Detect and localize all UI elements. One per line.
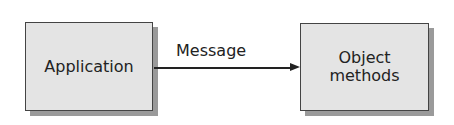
- application-node: Application: [25, 22, 153, 111]
- object-methods-label-line1: Object: [329, 49, 399, 67]
- message-label: Message: [176, 41, 246, 60]
- arrow-head-icon: [290, 63, 300, 71]
- application-label: Application: [44, 58, 133, 76]
- object-methods-label-line2: methods: [329, 67, 399, 85]
- message-arrow-line: [154, 67, 292, 69]
- object-methods-node: Object methods: [300, 23, 429, 111]
